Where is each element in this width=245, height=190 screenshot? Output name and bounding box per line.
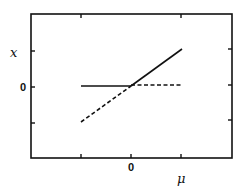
stable-branch-diagonal bbox=[131, 49, 182, 86]
y-axis-label: x bbox=[10, 45, 18, 60]
x-zero-label: 0 bbox=[128, 161, 134, 173]
bifurcation-diagram: x 0 0 μ bbox=[0, 0, 245, 190]
y-zero-label: 0 bbox=[20, 81, 26, 93]
unstable-branch-diagonal bbox=[81, 86, 131, 122]
x-axis-label: μ bbox=[177, 171, 185, 186]
